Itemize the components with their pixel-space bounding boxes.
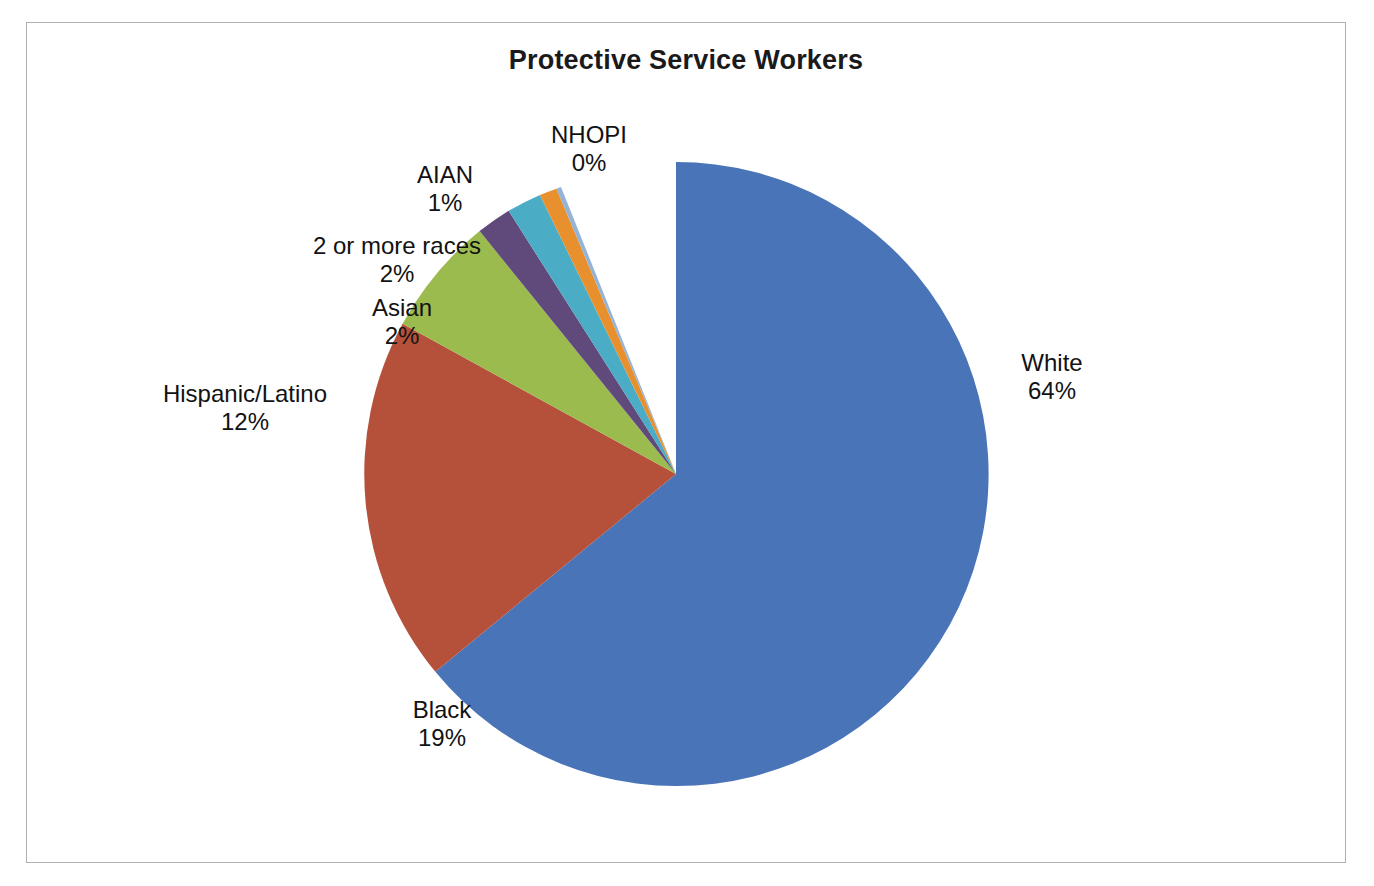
- pie-label-asian-name: Asian: [317, 294, 487, 322]
- pie-label-two-or-more-races: 2 or more races 2%: [272, 232, 522, 288]
- pie-chart-area: NHOPI 0% AIAN 1% 2 or more races 2% Asia…: [27, 23, 1347, 864]
- chart-page: Protective Service Workers: [0, 0, 1374, 886]
- pie-label-aian-name: AIAN: [360, 161, 530, 189]
- pie-label-hispanic-latino: Hispanic/Latino 12%: [113, 380, 377, 436]
- pie-label-hispanic-latino-value: 12%: [113, 408, 377, 436]
- chart-frame: Protective Service Workers: [26, 22, 1346, 863]
- pie-label-white-value: 64%: [967, 377, 1137, 405]
- pie-chart-svg: [27, 23, 1347, 864]
- pie-label-white: White 64%: [967, 349, 1137, 405]
- pie-label-white-name: White: [967, 349, 1137, 377]
- pie-label-two-or-more-races-value: 2%: [272, 260, 522, 288]
- pie-label-black: Black 19%: [357, 696, 527, 752]
- pie-label-nhopi-name: NHOPI: [504, 121, 674, 149]
- pie-label-asian: Asian 2%: [317, 294, 487, 350]
- pie-label-black-name: Black: [357, 696, 527, 724]
- pie-label-hispanic-latino-name: Hispanic/Latino: [113, 380, 377, 408]
- pie-label-aian: AIAN 1%: [360, 161, 530, 217]
- pie-label-black-value: 19%: [357, 724, 527, 752]
- pie-label-aian-value: 1%: [360, 189, 530, 217]
- pie-label-asian-value: 2%: [317, 322, 487, 350]
- pie-label-two-or-more-races-name: 2 or more races: [272, 232, 522, 260]
